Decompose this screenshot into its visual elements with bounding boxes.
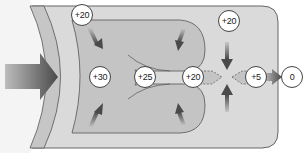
pressure-node-outlet: +5 [245,66,267,88]
pressure-node-channel-entry: +20 [182,66,204,88]
pressure-node-outside: 0 [281,66,303,88]
pressure-node-center: +25 [134,66,156,88]
pressure-node-left-center: +30 [89,66,111,88]
pressure-node-top-left: +20 [71,4,93,26]
pressure-node-top-right: +20 [218,10,240,32]
